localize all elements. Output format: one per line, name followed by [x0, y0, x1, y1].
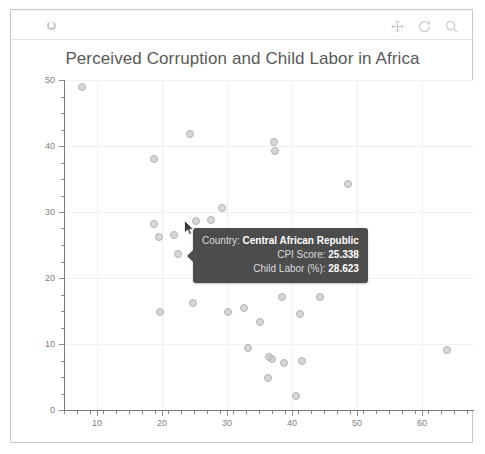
y-tick [59, 146, 64, 147]
x-tick-minor [103, 411, 104, 414]
x-tick-minor [363, 411, 364, 414]
y-tick [59, 80, 64, 81]
y-tick-label: 0 [11, 405, 55, 415]
scatter-point[interactable] [264, 374, 272, 382]
y-tick-minor [61, 163, 64, 164]
y-tick-label: 30 [11, 207, 55, 217]
y-tick [59, 410, 64, 411]
x-tick-minor [285, 411, 286, 414]
y-tick-minor [61, 361, 64, 362]
scatter-point[interactable] [150, 155, 158, 163]
x-tick-minor [233, 411, 234, 414]
x-tick-minor [311, 411, 312, 414]
x-tick-minor [376, 411, 377, 414]
x-tick-label: 60 [407, 418, 437, 428]
x-tick-minor [246, 411, 247, 414]
x-axis-line [64, 410, 474, 411]
x-tick-minor [168, 411, 169, 414]
y-tick-label: 50 [11, 75, 55, 85]
scatter-point[interactable] [443, 346, 451, 354]
scatter-point[interactable] [78, 83, 86, 91]
y-tick [59, 344, 64, 345]
scatter-point[interactable] [186, 130, 194, 138]
tooltip-arrow [187, 250, 193, 262]
zoom-icon[interactable] [443, 18, 460, 35]
y-tick-label: 20 [11, 273, 55, 283]
hover-tooltip: Country: Central African Republic CPI Sc… [193, 228, 368, 283]
gridline-horizontal [64, 344, 474, 345]
scatter-point[interactable] [280, 359, 288, 367]
x-tick-minor [116, 411, 117, 414]
mouse-pointer [184, 220, 195, 236]
chart-toolbar [11, 10, 474, 40]
scatter-point[interactable] [268, 355, 276, 363]
scatter-point[interactable] [150, 220, 158, 228]
y-tick-minor [61, 97, 64, 98]
x-tick-minor [77, 411, 78, 414]
x-tick-label: 30 [212, 418, 242, 428]
y-tick-minor [61, 377, 64, 378]
x-tick-label: 10 [82, 418, 112, 428]
y-tick [59, 212, 64, 213]
x-tick-minor [194, 411, 195, 414]
y-tick-minor [61, 245, 64, 246]
gridline-horizontal [64, 80, 474, 81]
y-axis-line [64, 80, 65, 411]
x-tick [357, 411, 358, 416]
x-tick [227, 411, 228, 416]
tooltip-label: CPI Score: [277, 249, 325, 260]
x-tick-minor [415, 411, 416, 414]
gridline-vertical [97, 80, 98, 411]
y-tick-minor [61, 311, 64, 312]
y-tick-label: 40 [11, 141, 55, 151]
reset-axes-icon[interactable] [416, 18, 433, 35]
x-tick-minor [428, 411, 429, 414]
x-tick-minor [129, 411, 130, 414]
scatter-point[interactable] [207, 216, 215, 224]
x-tick-minor [207, 411, 208, 414]
tooltip-row: Country: Central African Republic [202, 234, 359, 248]
x-tick-minor [337, 411, 338, 414]
y-tick-minor [61, 295, 64, 296]
tooltip-value: Central African Republic [243, 235, 359, 246]
scatter-point[interactable] [344, 180, 352, 188]
tooltip-row: Child Labor (%): 28.623 [202, 262, 359, 276]
x-tick [162, 411, 163, 416]
chart-window: Perceived Corruption and Child Labor in … [10, 9, 473, 443]
scatter-point[interactable] [278, 293, 286, 301]
scatter-point[interactable] [316, 293, 324, 301]
scatter-plot[interactable]: 10203040506001020304050 Country: Central… [11, 40, 474, 443]
x-tick-minor [350, 411, 351, 414]
y-tick-minor [61, 328, 64, 329]
x-tick [97, 411, 98, 416]
x-tick-minor [220, 411, 221, 414]
x-tick-minor [272, 411, 273, 414]
y-tick-label: 10 [11, 339, 55, 349]
y-tick-minor [61, 196, 64, 197]
y-tick-minor [61, 228, 64, 229]
scatter-point[interactable] [156, 308, 164, 316]
loading-spinner-icon [47, 21, 58, 32]
x-tick-minor [90, 411, 91, 414]
tooltip-value: 28.623 [328, 263, 359, 274]
scatter-point[interactable] [189, 299, 197, 307]
scatter-point[interactable] [174, 250, 182, 258]
x-tick-minor [441, 411, 442, 414]
x-tick [292, 411, 293, 416]
scatter-point[interactable] [292, 392, 300, 400]
x-tick-minor [259, 411, 260, 414]
x-tick-label: 50 [342, 418, 372, 428]
scatter-point[interactable] [256, 318, 264, 326]
tooltip-row: CPI Score: 25.338 [202, 248, 359, 262]
pan-icon[interactable] [389, 18, 406, 35]
tooltip-label: Child Labor (%): [253, 263, 325, 274]
y-tick-minor [61, 262, 64, 263]
gridline-vertical [162, 80, 163, 411]
y-tick-minor [61, 179, 64, 180]
x-tick-minor [298, 411, 299, 414]
gridline-horizontal [64, 146, 474, 147]
y-tick-minor [61, 113, 64, 114]
tooltip-label: Country: [202, 235, 240, 246]
tooltip-value: 25.338 [328, 249, 359, 260]
y-tick-minor [61, 394, 64, 395]
